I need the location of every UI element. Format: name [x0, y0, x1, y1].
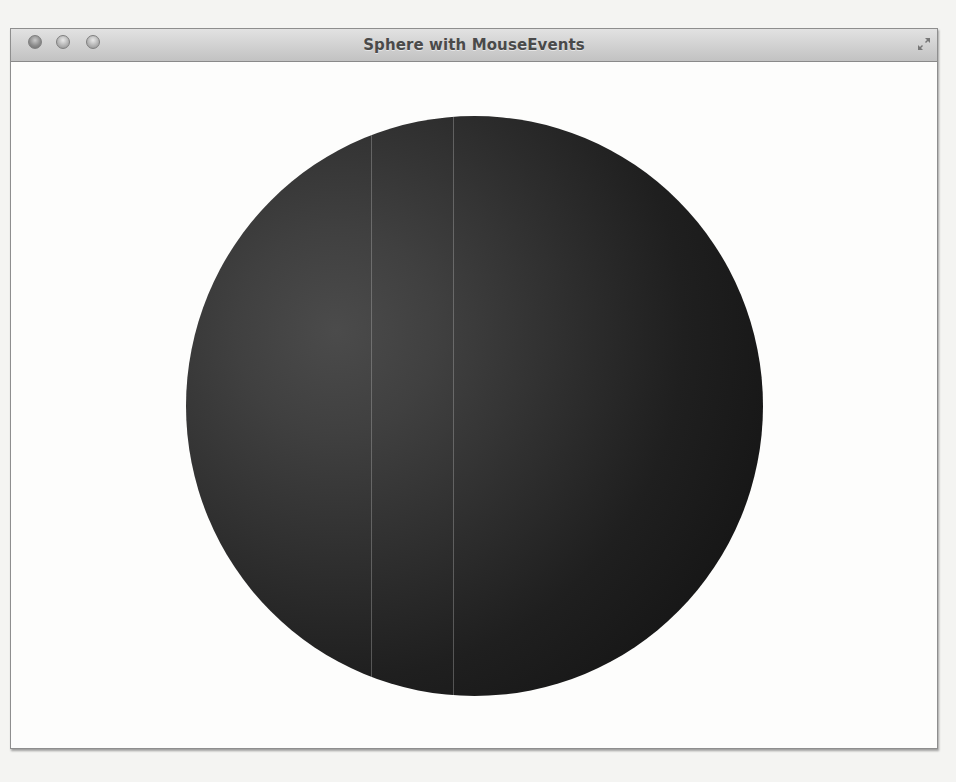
title-bar[interactable]: Sphere with MouseEvents: [11, 29, 937, 62]
app-window: Sphere with MouseEvents: [10, 28, 938, 749]
canvas-area[interactable]: [11, 62, 937, 748]
sphere[interactable]: [186, 116, 763, 696]
seam-line: [371, 116, 372, 696]
seam-line: [453, 116, 454, 696]
fullscreen-icon[interactable]: [917, 37, 931, 51]
window-title: Sphere with MouseEvents: [11, 36, 937, 54]
